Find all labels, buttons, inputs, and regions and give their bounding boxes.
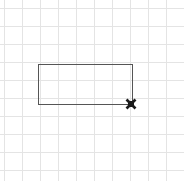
x-cursor-core: [128, 101, 134, 107]
x-cursor-marker: [127, 100, 136, 109]
drawing-canvas[interactable]: [0, 0, 184, 181]
cursor-layer: [0, 0, 184, 181]
x-cursor-marker: [127, 100, 136, 109]
